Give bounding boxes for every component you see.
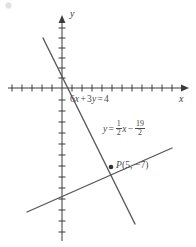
eq2-fraction-nineteen-halves: 192 [135,120,145,137]
point-y-value: −7 [135,160,145,170]
graph-figure: y x 6x+3y=4 y=12x−192 P(5, −7) [0,0,196,247]
y-axis-arrow-icon [59,15,66,23]
eq1-equals: = [96,94,104,104]
eq2-fraction-one-half: 12 [116,120,122,137]
eq2-frac1-denominator: 2 [116,129,122,137]
point-close-paren: ) [145,160,148,170]
y-axis-label: y [70,8,74,19]
eq1-op1: + [79,94,87,104]
eq1-rhs: 4 [104,94,109,104]
coordinate-plane [0,0,196,247]
x-axis-arrow-icon [181,85,189,92]
point-label-P: P(5, −7) [116,161,149,171]
eq2-frac2-denominator: 2 [135,129,145,137]
intersection-point-marker [109,165,114,170]
eq2-minus-op: − [127,124,135,134]
eq2-variable: x [122,124,126,134]
x-axis-label: x [179,93,183,104]
eq2-equals: = [107,124,115,134]
equation-label-1: 6x+3y=4 [70,95,109,105]
axes-group [8,15,189,241]
plotted-lines [27,38,172,224]
line-y-half-x-minus-19-2 [27,148,172,212]
point-comma: , [130,160,132,170]
equation-label-2: y=12x−192 [103,120,146,137]
